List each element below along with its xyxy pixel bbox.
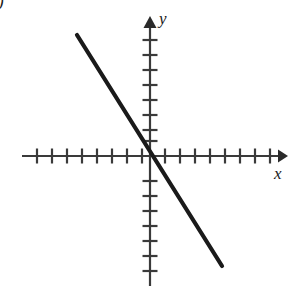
x-axis-label: x: [274, 165, 282, 182]
y-axis-arrowhead: [144, 16, 157, 28]
coordinate-plane-figure: ): [0, 0, 300, 296]
x-axis-arrowhead: [278, 150, 288, 163]
y-axis-label: y: [159, 10, 167, 27]
line-graph-plot: [0, 0, 300, 296]
